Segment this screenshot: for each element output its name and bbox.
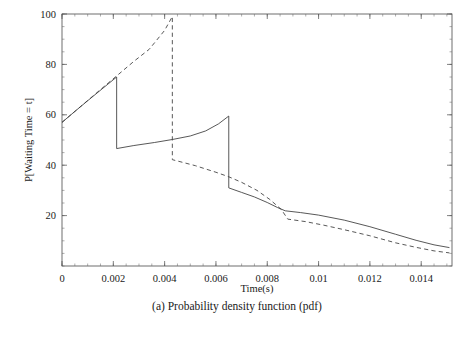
x-axis-minor-ticks bbox=[62, 14, 447, 266]
plot-frame bbox=[62, 14, 452, 266]
y-axis-minor-ticks bbox=[62, 14, 452, 266]
y-tick-label: 80 bbox=[46, 59, 57, 70]
x-tick-label: 0.01 bbox=[309, 273, 327, 284]
figure-container: 00.0020.0040.0060.0080.010.0120.014 2040… bbox=[0, 0, 474, 338]
figure-caption: (a) Probability density function (pdf) bbox=[0, 300, 474, 312]
pdf-line-chart: 00.0020.0040.0060.0080.010.0120.014 2040… bbox=[0, 0, 474, 300]
y-tick-label: 100 bbox=[40, 9, 56, 20]
x-tick-label: 0.002 bbox=[102, 273, 126, 284]
x-tick-label: 0.012 bbox=[358, 273, 382, 284]
y-tick-label: 20 bbox=[46, 210, 57, 221]
y-tick-label: 40 bbox=[46, 160, 57, 171]
x-axis-major-ticks bbox=[62, 14, 421, 266]
x-tick-label: 0 bbox=[59, 273, 64, 284]
series-solid-curve bbox=[62, 77, 449, 248]
y-axis-tick-labels: 20406080100 bbox=[40, 9, 56, 222]
y-axis-major-ticks bbox=[62, 14, 452, 216]
x-tick-label: 0.014 bbox=[409, 273, 433, 284]
x-axis-title: Time(s) bbox=[241, 283, 274, 295]
x-tick-label: 0.006 bbox=[204, 273, 228, 284]
chart-plot-area: 00.0020.0040.0060.0080.010.0120.014 2040… bbox=[0, 0, 474, 300]
y-tick-label: 60 bbox=[46, 109, 57, 120]
series-dashed-curve bbox=[62, 17, 449, 253]
x-tick-label: 0.004 bbox=[153, 273, 177, 284]
y-axis-title: P[Waiting Time = t] bbox=[23, 98, 34, 182]
